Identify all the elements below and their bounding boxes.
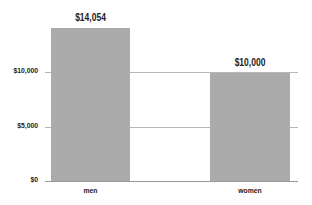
y-tick-label: $5,000 bbox=[6, 121, 38, 130]
baseline-0 bbox=[45, 181, 298, 182]
bar-women bbox=[210, 73, 290, 181]
data-label-women: $10,000 bbox=[216, 57, 284, 68]
y-tick-label: $10,000 bbox=[6, 66, 38, 75]
y-tick-label: $0 bbox=[6, 175, 38, 184]
bar-men bbox=[51, 28, 130, 181]
x-label-women: women bbox=[216, 186, 284, 195]
bar-chart: $10,000 $5,000 $0 $14,054 $10,000 men wo… bbox=[0, 0, 312, 205]
data-label-men: $14,054 bbox=[57, 12, 124, 23]
x-label-men: men bbox=[57, 186, 124, 195]
